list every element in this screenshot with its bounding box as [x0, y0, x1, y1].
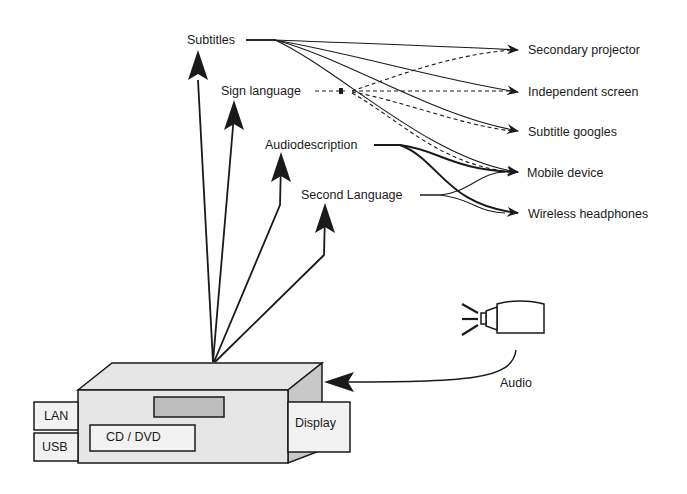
device-top-face — [78, 363, 322, 390]
output-independent-screen: Independent screen — [528, 85, 639, 99]
arrow-to-sign-language — [213, 115, 234, 362]
media-player-device — [34, 363, 350, 463]
source-arrows — [198, 80, 325, 362]
microphone-icon — [462, 301, 544, 335]
sign-language-marker — [339, 88, 343, 94]
audio-input-line — [330, 350, 516, 382]
source-second-language: Second Language — [301, 188, 402, 202]
lan-label: LAN — [44, 409, 68, 423]
output-secondary-projector: Secondary projector — [528, 43, 640, 57]
cd-dvd-label: CD / DVD — [106, 430, 161, 444]
second-language-routes — [420, 172, 505, 213]
subtitles-routes — [246, 40, 518, 172]
diagram-canvas — [0, 0, 687, 494]
device-display-slot — [154, 397, 224, 417]
sign-language-routes — [315, 50, 512, 172]
arrowhead-up-icon — [188, 50, 208, 80]
output-wireless-headphones: Wireless headphones — [528, 207, 648, 221]
display-label: Display — [295, 416, 336, 430]
output-subtitle-googles: Subtitle googles — [528, 125, 617, 139]
audiodescription-routes — [374, 145, 518, 213]
output-mobile-device: Mobile device — [527, 166, 603, 180]
arrow-to-subtitles — [198, 80, 213, 362]
source-audiodescription: Audiodescription — [265, 138, 357, 152]
audio-label: Audio — [500, 376, 532, 390]
arrow-to-second-language — [215, 213, 325, 362]
usb-label: USB — [42, 440, 68, 454]
arrow-to-audiodescription — [214, 163, 281, 362]
source-sign-language: Sign language — [221, 84, 301, 98]
source-subtitles: Subtitles — [187, 33, 235, 47]
